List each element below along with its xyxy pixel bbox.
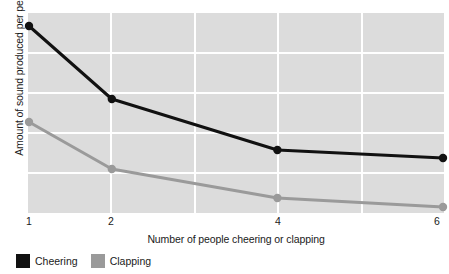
x-tick-label: 2 [99, 215, 123, 228]
x-tick-label: 1 [17, 215, 41, 228]
x-axis-title: Number of people cheering or clapping [28, 233, 444, 246]
data-point-clapping [108, 165, 116, 173]
data-point-clapping [439, 203, 447, 211]
legend-label: Clapping [110, 254, 151, 268]
y-axis-title: Amount of sound produced per person [13, 0, 25, 175]
series-plot [28, 13, 444, 213]
legend-item-clapping: Clapping [91, 254, 151, 268]
plot-area [28, 13, 444, 213]
legend-label: Cheering [35, 254, 78, 268]
data-point-cheering [25, 22, 33, 30]
x-tick-label: 4 [266, 215, 290, 228]
data-point-cheering [439, 154, 447, 162]
legend-item-cheering: Cheering [16, 254, 78, 268]
data-point-cheering [273, 146, 281, 154]
line-chart-figure: Amount of sound produced per person 1 2 … [0, 0, 449, 274]
data-point-clapping [25, 118, 33, 126]
legend-swatch-icon [91, 254, 105, 268]
legend-swatch-icon [16, 254, 30, 268]
series-line-cheering [29, 26, 443, 158]
x-tick-label: 6 [425, 215, 449, 228]
data-point-clapping [273, 194, 281, 202]
chart-legend: Cheering Clapping [16, 254, 151, 268]
data-point-cheering [108, 95, 116, 103]
series-line-clapping [29, 122, 443, 207]
